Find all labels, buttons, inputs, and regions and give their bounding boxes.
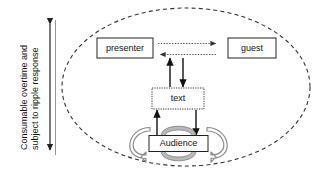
node-audience[interactable]: Audience xyxy=(149,136,208,152)
audience-label: Audience xyxy=(160,138,198,148)
node-presenter[interactable]: presenter xyxy=(97,38,153,58)
presenter-guest-exchange xyxy=(158,44,216,55)
node-guest[interactable]: guest xyxy=(228,38,276,58)
presenter-label: presenter xyxy=(106,43,144,53)
diagram-canvas: Consumable overtime and subject to rippl… xyxy=(0,0,318,174)
ripple-loop-top xyxy=(161,126,196,136)
axis-label-line-2: subject to ripple response xyxy=(30,47,40,150)
node-text[interactable]: text xyxy=(152,88,204,109)
ripple-loop-right xyxy=(207,128,227,163)
ripple-loop-left xyxy=(130,128,150,163)
guest-label: guest xyxy=(241,43,264,53)
text-label: text xyxy=(171,93,186,103)
channel-text-exchange xyxy=(170,58,183,87)
diagram-svg: Consumable overtime and subject to rippl… xyxy=(0,0,318,174)
consumption-axis: Consumable overtime and subject to rippl… xyxy=(19,20,56,155)
axis-label-line-1: Consumable overtime and xyxy=(19,45,29,150)
ripple-loop-bottom xyxy=(161,151,196,161)
